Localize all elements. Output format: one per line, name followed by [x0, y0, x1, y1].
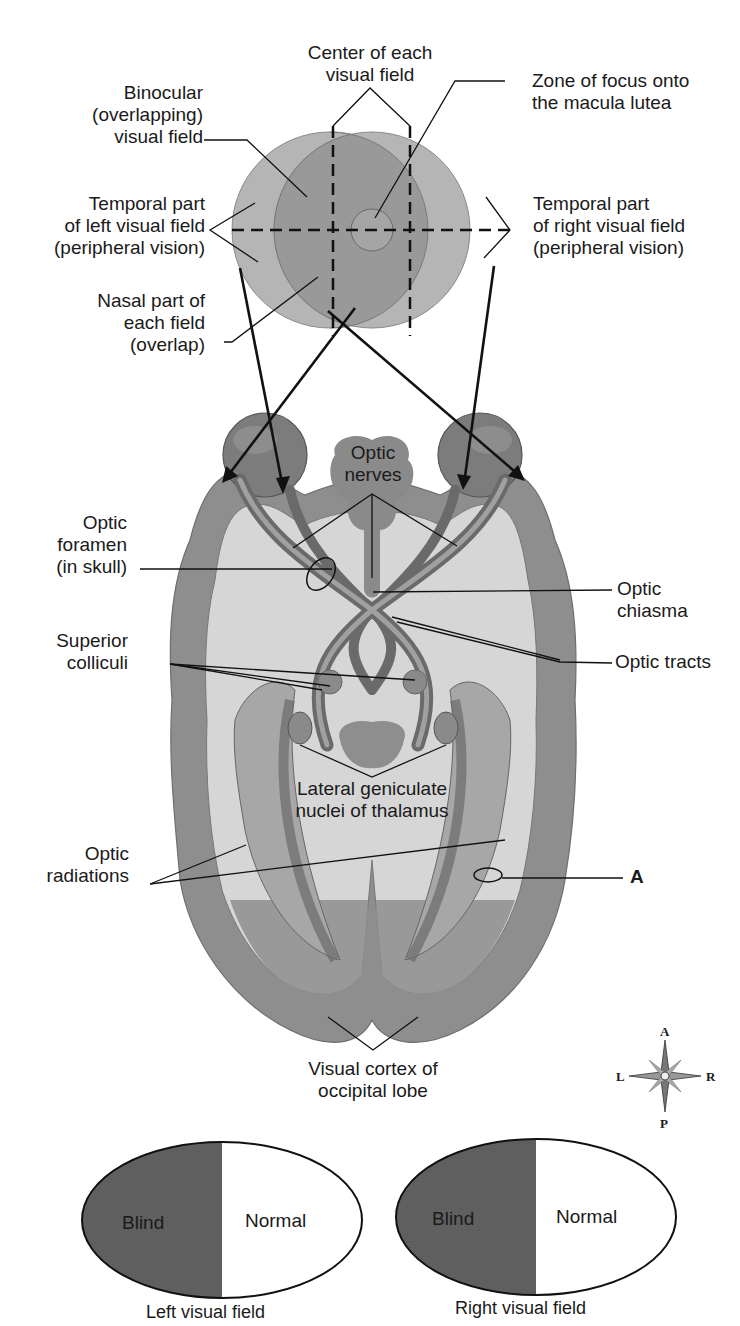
label-line: colliculi: [30, 652, 128, 674]
label-line: (peripheral vision): [20, 237, 205, 259]
label-lateral-geniculate-nuclei: Lateral geniculate nuclei of thalamus: [272, 778, 472, 822]
right-visual-field-caption: Right visual field: [455, 1298, 586, 1319]
label-line: chiasma: [617, 600, 688, 622]
label-line: (in skull): [30, 556, 127, 578]
label-marker-a: A: [630, 866, 644, 888]
label-line: visual field: [300, 64, 440, 86]
label-line: of left visual field: [20, 215, 205, 237]
right-superior-colliculus: [403, 670, 427, 694]
left-field-normal-label: Normal: [245, 1210, 306, 1232]
label-line: occipital lobe: [288, 1080, 458, 1102]
label-line: of right visual field: [533, 215, 685, 237]
compass-anterior-label: A: [660, 1024, 669, 1040]
label-line: Optic: [617, 578, 688, 600]
compass-left-label: L: [616, 1069, 625, 1085]
label-line: (peripheral vision): [533, 237, 685, 259]
left-lateral-geniculate: [288, 712, 312, 744]
label-optic-nerves: Optic nerves: [330, 442, 416, 486]
right-lateral-geniculate: [434, 712, 458, 744]
label-line: Optic: [30, 512, 127, 534]
label-center-of-each-visual-field: Center of each visual field: [300, 42, 440, 86]
label-line: Nasal part of: [60, 290, 205, 312]
label-line: foramen: [30, 534, 127, 556]
label-line: Temporal part: [533, 193, 685, 215]
visual-field-diagram: [232, 126, 510, 336]
label-superior-colliculi: Superior colliculi: [30, 630, 128, 674]
label-line: (overlapping): [40, 104, 203, 126]
label-line: (overlap): [60, 334, 205, 356]
label-line: nerves: [330, 464, 416, 486]
label-line: Lateral geniculate: [272, 778, 472, 800]
label-optic-chiasma: Optic chiasma: [617, 578, 688, 622]
label-macula-zone: Zone of focus onto the macula lutea: [532, 70, 689, 114]
label-line: Visual cortex of: [288, 1058, 458, 1080]
label-optic-radiations: Optic radiations: [30, 843, 129, 887]
label-line: Optic: [30, 843, 129, 865]
left-field-blind-label: Blind: [122, 1212, 164, 1234]
compass-right-label: R: [706, 1069, 715, 1085]
compass-posterior-label: P: [660, 1116, 668, 1132]
label-visual-cortex: Visual cortex of occipital lobe: [288, 1058, 458, 1102]
label-line: Superior: [30, 630, 128, 652]
label-line: nuclei of thalamus: [272, 800, 472, 822]
left-visual-field-caption: Left visual field: [146, 1302, 265, 1323]
label-nasal-part: Nasal part of each field (overlap): [60, 290, 205, 356]
label-line: visual field: [40, 126, 203, 148]
label-temporal-right: Temporal part of right visual field (per…: [533, 193, 685, 259]
label-optic-foramen: Optic foramen (in skull): [30, 512, 127, 578]
right-field-normal-label: Normal: [556, 1206, 617, 1228]
label-line: Center of each: [300, 42, 440, 64]
compass-rose-icon: [629, 1040, 701, 1112]
label-line: Temporal part: [20, 193, 205, 215]
label-line: radiations: [30, 865, 129, 887]
label-temporal-left: Temporal part of left visual field (peri…: [20, 193, 205, 259]
label-line: Optic: [330, 442, 416, 464]
label-line: the macula lutea: [532, 92, 689, 114]
label-line: each field: [60, 312, 205, 334]
label-line: Zone of focus onto: [532, 70, 689, 92]
label-line: Binocular: [40, 82, 203, 104]
label-binocular-visual-field: Binocular (overlapping) visual field: [40, 82, 203, 148]
brain-horizontal-section: [170, 413, 576, 1042]
label-optic-tracts: Optic tracts: [615, 651, 711, 673]
right-field-blind-label: Blind: [432, 1208, 474, 1230]
